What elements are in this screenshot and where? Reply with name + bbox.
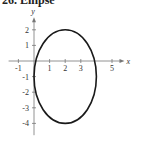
y-tick-label: 2: [25, 26, 29, 35]
x-tick-label: -1: [15, 64, 22, 73]
x-tick-label: 1: [48, 64, 52, 73]
y-tick-label: -1: [22, 73, 29, 82]
ellipse-chart: xy -1123521-1-2-3-4: [0, 0, 143, 146]
marks: [34, 30, 96, 124]
y-axis-label: y: [30, 7, 35, 16]
y-tick-label: -3: [22, 104, 29, 113]
x-tick-label: 3: [79, 64, 83, 73]
x-tick-label: 2: [63, 64, 67, 73]
y-axis-arrow: [32, 17, 36, 22]
x-tick-label: 5: [110, 64, 114, 73]
x-axis-arrow: [119, 59, 124, 63]
ellipse-curve: [34, 30, 96, 124]
y-tick-label: -2: [22, 88, 29, 97]
x-axis-label: x: [125, 57, 130, 66]
y-tick-label: -4: [22, 119, 29, 128]
ticks: -1123521-1-2-3-4: [15, 26, 114, 129]
y-tick-label: 1: [25, 41, 29, 50]
